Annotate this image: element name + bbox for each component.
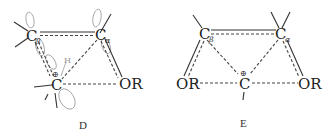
- orbital-lobe-icon: [44, 53, 59, 71]
- diagram-canvas: C β C α H ⊕ C OR D C β: [0, 0, 329, 134]
- caption-e: E: [240, 117, 247, 129]
- bond-line: [287, 40, 303, 76]
- atom-c-cation: C: [239, 75, 250, 93]
- subscript-beta: β: [208, 35, 214, 44]
- subscript-beta: β: [35, 37, 41, 46]
- structure-e: C β C α ⊕ C OR OR E: [176, 12, 322, 129]
- dashed-bond-line: [250, 40, 278, 74]
- atom-c-cation: C: [51, 76, 62, 94]
- dashed-bond-line: [283, 41, 299, 77]
- atom-or-left: OR: [176, 75, 200, 93]
- dashed-bond-line: [207, 40, 238, 74]
- atom-or-right: OR: [298, 75, 322, 93]
- bond-line: [243, 92, 244, 100]
- dashed-bond-line: [101, 41, 118, 78]
- dashed-bond-line: [35, 42, 50, 76]
- orbital-lobe-icon: [25, 11, 36, 28]
- bond-line: [55, 93, 57, 108]
- orbital-lobe-icon: [91, 8, 102, 27]
- bond-line: [184, 40, 200, 76]
- bond-line: [34, 85, 52, 87]
- structure-d: C β C α H ⊕ C OR D: [14, 8, 143, 131]
- subscript-alpha: α: [105, 36, 111, 45]
- bond-line: [45, 94, 48, 100]
- atom-or: OR: [119, 75, 143, 93]
- subscript-alpha: α: [285, 35, 291, 44]
- atom-h: H: [64, 56, 71, 65]
- caption-d: D: [79, 119, 87, 131]
- dashed-bond-line: [188, 41, 204, 77]
